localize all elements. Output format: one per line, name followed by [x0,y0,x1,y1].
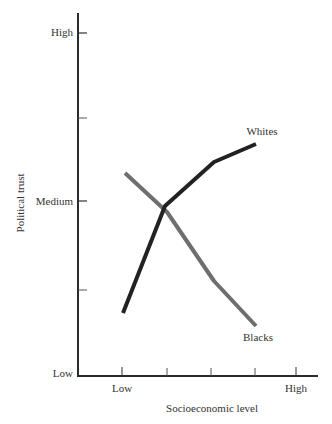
x-label-high: High [285,382,308,394]
x-label-low: Low [112,382,132,394]
x-axis-title: Socioeconomic level [166,402,258,414]
y-label-medium: Medium [36,195,74,207]
series-label-blacks: Blacks [243,331,273,343]
line-chart: High Medium Low Low High Political trust… [0,0,332,424]
y-label-low: Low [53,367,73,379]
y-label-high: High [51,26,74,38]
y-axis-title: Political trust [14,174,26,233]
series-whites-line [123,144,256,313]
series-blacks-line [125,173,256,326]
series-label-whites: Whites [246,125,277,137]
